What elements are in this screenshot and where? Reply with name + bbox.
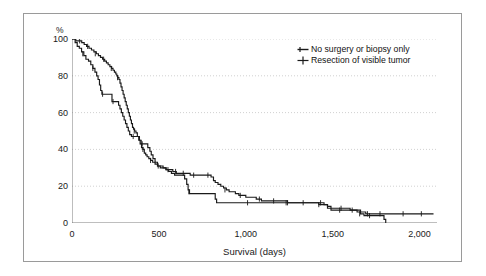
legend-label-0: No surgery or biopsy only <box>311 44 410 55</box>
y-tick-label-40: 40 <box>44 144 68 154</box>
legend-label-1: Resection of visible tumor <box>311 55 410 66</box>
y-tick-label-60: 60 <box>44 108 68 118</box>
kaplan-meier-chart <box>72 39 437 223</box>
y-tick-label-20: 20 <box>44 181 68 191</box>
chart-legend: No surgery or biopsy onlyResection of vi… <box>296 44 410 66</box>
plus-marker-icon <box>296 55 311 66</box>
x-tick-label-500: 500 <box>151 229 166 239</box>
legend-item-1: Resection of visible tumor <box>296 55 410 66</box>
plot-area <box>72 39 437 223</box>
series-line-0 <box>72 39 386 223</box>
x-tick-label-2000: 2,000 <box>408 229 431 239</box>
figure-root: % 020406080100 05001,0001,5002,000 Survi… <box>0 0 486 276</box>
x-tick-label-1000: 1,000 <box>235 229 258 239</box>
y-tick-label-0: 0 <box>44 218 68 228</box>
y-tick-label-80: 80 <box>44 71 68 81</box>
x-axis-title: Survival (days) <box>72 246 437 257</box>
legend-item-0: No surgery or biopsy only <box>296 44 410 55</box>
x-axis-tick-labels: 05001,0001,5002,000 <box>0 229 486 243</box>
x-tick-label-0: 0 <box>69 229 74 239</box>
line-marker-icon <box>296 44 311 55</box>
y-tick-label-100: 100 <box>44 34 68 44</box>
x-tick-label-1500: 1,500 <box>321 229 344 239</box>
